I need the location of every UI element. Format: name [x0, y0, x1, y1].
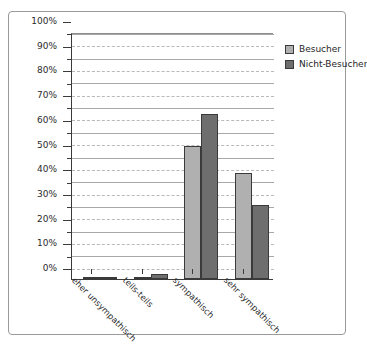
y-tick-major	[63, 220, 71, 221]
y-axis-tick-label: 30%	[13, 190, 57, 199]
y-axis-tick-label: 50%	[13, 141, 57, 150]
y-tick-major	[63, 195, 71, 196]
cut-off-header-text	[0, 0, 356, 5]
bar	[100, 277, 117, 279]
bar	[252, 205, 269, 279]
gridline-minor	[72, 71, 274, 72]
y-tick-major	[63, 170, 71, 171]
y-axis-tick-label: 10%	[13, 239, 57, 248]
bar	[83, 277, 100, 279]
gridline-major	[72, 108, 274, 109]
gridline-major	[72, 83, 274, 84]
y-axis-tick-label: 100%	[13, 17, 57, 26]
y-axis-tick-label: 80%	[13, 66, 57, 75]
bar	[184, 146, 201, 279]
y-axis-tick-label: 20%	[13, 215, 57, 224]
y-axis-tick-label: 90%	[13, 42, 57, 51]
gridline-major	[72, 133, 274, 134]
legend-item: Besucher	[285, 43, 361, 55]
gridline-minor	[72, 120, 274, 121]
gridline-minor	[72, 46, 274, 47]
x-tick	[243, 269, 244, 274]
bar	[151, 274, 168, 279]
legend-item: Nicht-Besucher	[285, 58, 361, 70]
gridline-major	[72, 34, 274, 35]
y-axis-tick-label: 70%	[13, 91, 57, 100]
y-tick-major	[63, 47, 71, 48]
bar	[235, 173, 252, 279]
y-tick-major	[63, 244, 71, 245]
x-axis-category-label: sympathisch	[171, 275, 216, 320]
legend-swatch-icon	[285, 60, 294, 69]
legend-label: Nicht-Besucher	[299, 59, 367, 69]
legend-swatch-icon	[285, 45, 294, 54]
plot-area	[71, 33, 273, 280]
gridline-minor	[72, 96, 274, 97]
x-axis-category-label: teils-teils	[121, 275, 155, 309]
y-tick-major	[63, 121, 71, 122]
y-tick-major	[63, 146, 71, 147]
y-tick-major	[63, 96, 71, 97]
y-axis-tick-label: 0%	[13, 264, 57, 273]
x-tick	[142, 269, 143, 274]
bar	[134, 277, 151, 279]
figure-frame: 0%10%20%30%40%50%60%70%80%90%100% eher u…	[8, 11, 346, 335]
x-tick	[192, 269, 193, 274]
legend-label: Besucher	[299, 44, 341, 54]
gridline-major	[72, 59, 274, 60]
y-tick-major	[63, 269, 71, 270]
y-axis-tick-label: 40%	[13, 165, 57, 174]
gridline-major	[72, 158, 274, 159]
y-axis-tick-label: 60%	[13, 116, 57, 125]
gridline-minor	[72, 145, 274, 146]
x-tick	[91, 269, 92, 274]
y-tick-major	[63, 22, 71, 23]
chart-legend: BesucherNicht-Besucher	[285, 43, 361, 73]
x-axis-category-label: sehr sympathisch	[222, 275, 282, 335]
gridline-minor	[72, 170, 274, 171]
bar	[201, 114, 218, 279]
y-tick-major	[63, 71, 71, 72]
